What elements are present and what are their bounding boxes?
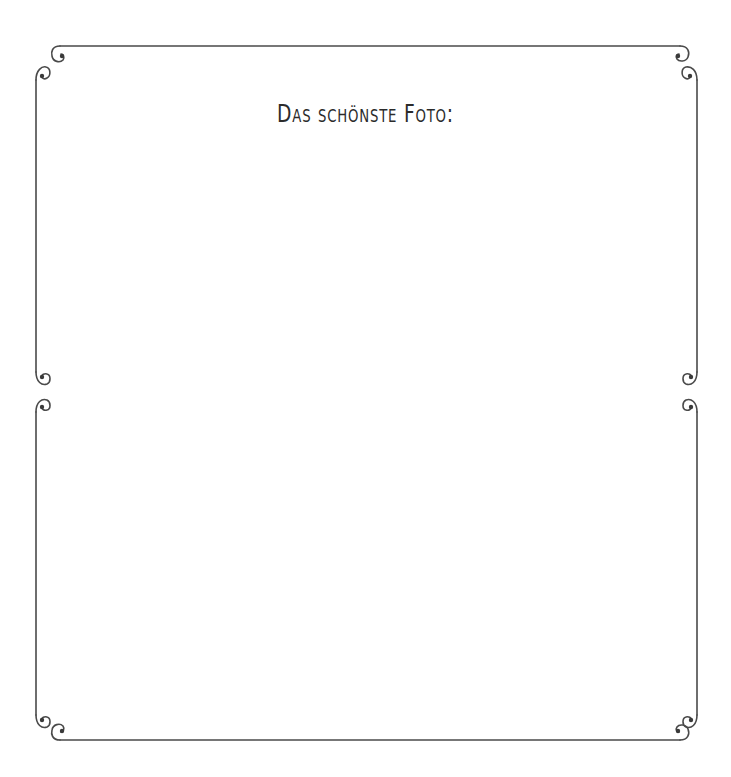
page-title: Das schönste Foto:	[80, 100, 650, 128]
photo-placeholder-lower	[40, 405, 692, 735]
swirl-corner-icon	[36, 67, 50, 80]
swirl-corner-icon	[676, 46, 689, 61]
photo-placeholder-upper	[40, 150, 692, 370]
